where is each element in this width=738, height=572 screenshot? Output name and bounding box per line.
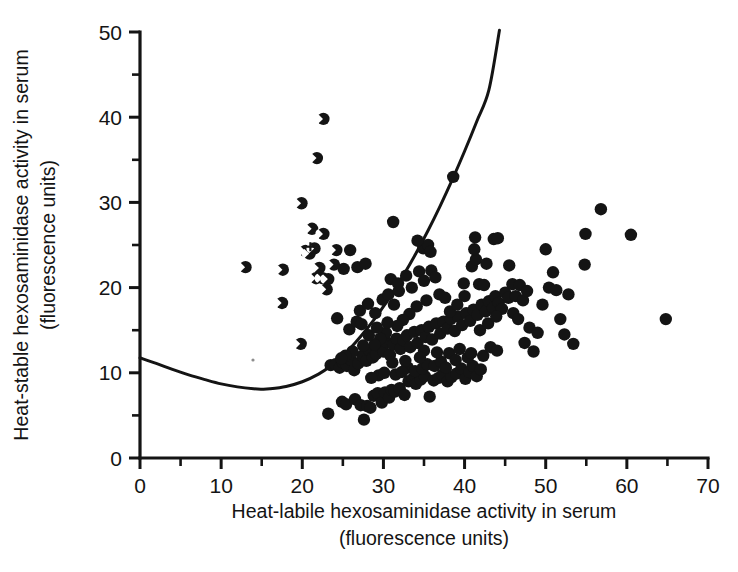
y-axis-ticks <box>129 32 140 458</box>
data-point <box>423 390 435 402</box>
data-point <box>492 232 504 244</box>
data-point <box>558 328 570 340</box>
x-tick-label: 50 <box>534 474 557 497</box>
data-point <box>424 246 436 258</box>
data-point <box>475 363 487 375</box>
data-point <box>371 321 383 333</box>
y-axis-title-units: (fluorescence units) <box>37 160 59 330</box>
data-point <box>469 231 481 243</box>
data-point-half <box>275 264 289 276</box>
data-point <box>364 402 376 414</box>
data-point <box>331 312 343 324</box>
data-point <box>398 389 410 401</box>
data-point <box>449 354 461 366</box>
data-point <box>625 229 637 241</box>
y-tick-label: 30 <box>99 191 122 214</box>
data-point <box>660 313 672 325</box>
data-point <box>387 216 399 228</box>
x-axis-title: Heat-labile hexosaminidase activity in s… <box>232 500 617 522</box>
data-point <box>365 372 377 384</box>
data-point <box>562 288 574 300</box>
data-point <box>396 366 408 378</box>
data-point <box>567 338 579 350</box>
data-point <box>378 367 390 379</box>
data-point-half <box>293 197 307 209</box>
data-point <box>322 408 334 420</box>
x-tick-label: 20 <box>291 474 314 497</box>
data-point <box>355 318 367 330</box>
y-axis-title: Heat-stable hexosaminidase activity in s… <box>10 49 32 440</box>
data-point <box>388 298 400 310</box>
y-tick-label: 40 <box>99 106 122 129</box>
data-point <box>411 235 423 247</box>
data-point <box>540 243 552 255</box>
data-point <box>447 171 459 183</box>
data-point <box>536 298 548 310</box>
data-point <box>521 285 533 297</box>
data-point <box>429 271 441 283</box>
data-point <box>399 355 411 367</box>
data-point <box>458 277 470 289</box>
data-points-half-filled <box>237 113 342 350</box>
data-point-half <box>319 283 333 295</box>
data-point <box>358 413 370 425</box>
data-point-half <box>328 244 342 256</box>
data-point <box>547 266 559 278</box>
y-axis-tick-labels: 01020304050 <box>99 21 122 470</box>
x-axis-title-units: (fluorescence units) <box>339 527 509 549</box>
y-tick-label: 0 <box>110 447 122 470</box>
data-point-half <box>237 261 251 273</box>
data-point <box>381 316 393 328</box>
data-point <box>451 298 463 310</box>
data-point <box>418 275 430 287</box>
data-point <box>518 337 530 349</box>
data-point <box>369 307 381 319</box>
x-tick-label: 60 <box>615 474 638 497</box>
data-point <box>491 344 503 356</box>
data-point <box>527 345 539 357</box>
figure-container: 01020304050 010203040506070 Heat-labile … <box>0 0 738 572</box>
data-point <box>490 310 502 322</box>
data-point <box>431 346 443 358</box>
data-point <box>578 258 590 270</box>
data-point <box>357 339 369 351</box>
x-axis-tick-labels: 010203040506070 <box>134 474 720 497</box>
data-point <box>550 284 562 296</box>
data-point-half <box>326 258 340 270</box>
data-point <box>414 351 426 363</box>
data-point <box>579 228 591 240</box>
x-tick-label: 10 <box>209 474 232 497</box>
x-tick-label: 30 <box>372 474 395 497</box>
data-point <box>503 259 515 271</box>
data-point <box>554 313 566 325</box>
data-point-half <box>315 113 329 125</box>
data-point <box>531 327 543 339</box>
data-point <box>386 356 398 368</box>
x-tick-label: 70 <box>696 474 719 497</box>
y-tick-label: 50 <box>99 21 122 44</box>
data-point <box>440 361 452 373</box>
data-point-half <box>274 297 288 309</box>
data-point <box>512 313 524 325</box>
y-tick-label: 10 <box>99 361 122 384</box>
data-point <box>439 292 451 304</box>
y-tick-label: 20 <box>99 276 122 299</box>
data-point <box>465 347 477 359</box>
x-tick-label: 0 <box>134 474 146 497</box>
x-tick-label: 40 <box>453 474 476 497</box>
data-point-half <box>309 152 323 164</box>
speck-artifact <box>251 358 254 361</box>
data-point <box>400 269 412 281</box>
data-point <box>344 244 356 256</box>
data-point <box>335 352 347 364</box>
data-point-half <box>293 338 307 350</box>
data-point <box>595 203 607 215</box>
data-point <box>478 279 490 291</box>
data-point <box>406 281 418 293</box>
data-point <box>468 243 480 255</box>
data-point <box>359 258 371 270</box>
scatter-plot: 01020304050 010203040506070 Heat-labile … <box>0 0 738 572</box>
data-point <box>480 258 492 270</box>
data-points-filled <box>322 171 672 426</box>
x-axis-ticks <box>140 458 708 469</box>
